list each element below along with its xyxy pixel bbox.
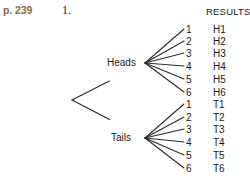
outcome-number: 5: [186, 150, 192, 162]
branch-line-heads: [72, 81, 109, 100]
outcome-result: T3: [213, 124, 225, 136]
outcome-result: T1: [213, 99, 225, 111]
outcome-result: H1: [213, 24, 226, 36]
branch-line-tails: [72, 100, 110, 120]
tree-branch-lines: [72, 29, 184, 168]
outcome-result: H3: [213, 48, 226, 60]
outcome-result: H5: [213, 74, 226, 86]
outcome-result: H2: [213, 36, 226, 48]
outcome-line-heads-2: [145, 41, 184, 63]
outcome-number: 1: [186, 99, 192, 111]
outcome-result: H4: [213, 61, 226, 73]
tree-diagram-page: p. 239 1. RESULTS Heads Tails 1H12H23H34…: [0, 0, 250, 185]
outcome-number: 3: [186, 48, 192, 60]
outcome-result: T2: [213, 112, 225, 124]
tree-node-tails: Tails: [111, 132, 131, 143]
outcome-number: 5: [186, 74, 192, 86]
outcome-result: T4: [213, 137, 225, 149]
outcome-result: T6: [213, 163, 225, 175]
outcome-number: 2: [186, 36, 192, 48]
outcome-number: 6: [186, 87, 192, 99]
outcome-number: 2: [186, 112, 192, 124]
outcome-number: 4: [186, 137, 192, 149]
outcome-number: 3: [186, 124, 192, 136]
tree-node-heads: Heads: [107, 57, 136, 68]
outcome-number: 1: [186, 24, 192, 36]
outcome-line-tails-2: [145, 117, 184, 138]
outcome-result: H6: [213, 87, 226, 99]
outcome-result: T5: [213, 150, 225, 162]
outcome-number: 4: [186, 61, 192, 73]
outcome-line-tails-1: [145, 104, 184, 138]
outcome-line-heads-6: [145, 63, 184, 92]
outcome-number: 6: [186, 163, 192, 175]
